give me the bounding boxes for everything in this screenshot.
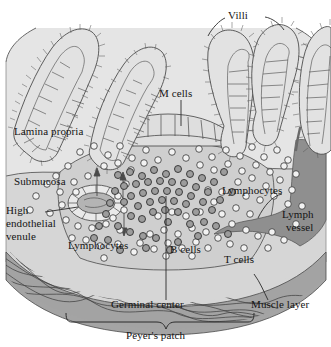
- peyers-patch-diagram: [0, 0, 331, 347]
- label-b-cells: B cells: [170, 244, 201, 255]
- label-m-cells: M cells: [159, 88, 192, 99]
- label-lymphocytes-left: Lymphocytes: [68, 240, 128, 251]
- label-muscle-layer: Muscle layer: [251, 299, 309, 310]
- label-germinal-center: Germinal center: [111, 299, 184, 310]
- label-peyers-patch: Peyer's patch: [126, 330, 185, 341]
- label-t-cells: T cells: [224, 254, 254, 265]
- label-villi: Villi: [228, 10, 248, 21]
- label-submucosa: Submucosa: [14, 176, 66, 187]
- label-lymphocytes-right: Lymphocytes: [222, 185, 282, 196]
- label-lymph-vessel-line1: Lymph: [282, 209, 314, 220]
- label-lamina-propria: Lamina propria: [14, 126, 84, 137]
- figure-canvas: Villi M cells Lamina propria Submucosa H…: [0, 0, 331, 347]
- label-high-endothelial-venule-line3: venule: [6, 231, 36, 242]
- label-high-endothelial-venule-line2: endothelial: [6, 218, 56, 229]
- label-high-endothelial-venule-line1: High: [6, 205, 28, 216]
- label-lymph-vessel-line2: vessel: [286, 222, 313, 233]
